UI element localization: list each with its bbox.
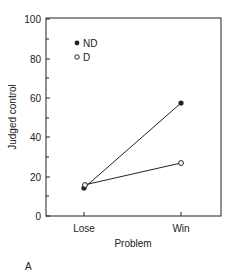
legend: ND D xyxy=(75,38,98,63)
d-marker-lose xyxy=(83,183,88,188)
y-tick-labels: 0 20 40 60 80 100 xyxy=(24,14,41,222)
y-tick-label: 60 xyxy=(30,93,42,104)
y-tick-label: 20 xyxy=(30,172,42,183)
x-tick-label-lose: Lose xyxy=(73,223,95,234)
y-axis-title: Judged control xyxy=(7,84,18,150)
d-marker-win xyxy=(179,161,184,166)
legend-nd-label: ND xyxy=(83,38,97,49)
y-tick-label: 80 xyxy=(30,54,42,65)
y-tick-label: 40 xyxy=(30,132,42,143)
y-tick-label: 100 xyxy=(24,14,41,25)
y-tick-label: 0 xyxy=(35,211,41,222)
legend-d-icon xyxy=(75,55,79,59)
panel-label: A xyxy=(25,261,32,272)
legend-nd-icon xyxy=(75,41,80,46)
x-axis-ticks xyxy=(84,212,181,216)
legend-d-label: D xyxy=(83,52,90,63)
x-tick-label-win: Win xyxy=(172,223,189,234)
x-axis-title: Problem xyxy=(114,238,151,249)
nd-marker-win xyxy=(178,100,183,105)
series-nd-line xyxy=(84,103,181,188)
line-chart: 0 20 40 60 80 100 Lose Win Problem Judge… xyxy=(0,0,232,278)
series-d-line xyxy=(84,163,181,185)
plot-frame xyxy=(46,18,221,216)
y-axis-ticks xyxy=(46,19,50,216)
